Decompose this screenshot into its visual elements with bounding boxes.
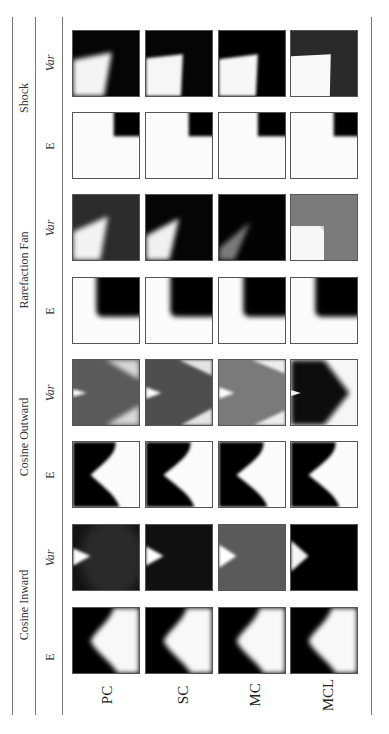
tile-cosine-inward-var-pc — [72, 524, 140, 591]
method-label-pc: PC — [99, 686, 116, 704]
tile-cosine-outward-e-sc — [145, 441, 213, 508]
tile-cosine-inward-e-mcl — [290, 607, 358, 674]
tile-cosine-inward-e-pc — [72, 607, 140, 674]
tile-cosine-outward-e-mcl — [290, 441, 358, 508]
tile-cosine-inward-var-mc — [218, 524, 286, 591]
tile-rarefaction-e-sc — [145, 277, 213, 344]
method-label-sc: SC — [175, 686, 192, 704]
sub-label-var: Var — [43, 385, 58, 402]
sub-label-var: Var — [43, 220, 58, 237]
sub-label-var: Var — [43, 550, 58, 567]
tile-shock-var-mcl — [290, 30, 358, 97]
tile-shock-e-mc — [218, 112, 286, 179]
tile-cosine-inward-e-sc — [145, 607, 213, 674]
tile-rarefaction-var-sc — [145, 194, 213, 261]
tile-rarefaction-e-mc — [218, 277, 286, 344]
tile-cosine-outward-var-mcl — [290, 359, 358, 426]
group-label-cosine-outward: Cosine Outward — [17, 398, 32, 476]
rule-top — [12, 17, 13, 715]
tile-cosine-inward-var-mcl — [290, 524, 358, 591]
tile-shock-var-pc — [72, 30, 140, 97]
sub-label-var: Var — [43, 55, 58, 72]
method-label-mcl: MCL — [320, 679, 337, 712]
tile-cosine-outward-e-mc — [218, 441, 286, 508]
tile-rarefaction-e-pc — [72, 277, 140, 344]
rule-mid — [35, 17, 36, 715]
tile-cosine-outward-var-pc — [72, 359, 140, 426]
tile-rarefaction-var-mc — [218, 194, 286, 261]
tile-cosine-outward-e-pc — [72, 441, 140, 508]
tile-shock-e-sc — [145, 112, 213, 179]
rule-bottom — [371, 17, 372, 715]
rule-sub — [62, 17, 63, 715]
sub-label-e: E — [43, 142, 58, 149]
tile-shock-e-mcl — [290, 112, 358, 179]
tile-rarefaction-var-mcl — [290, 194, 358, 261]
tile-rarefaction-var-pc — [72, 194, 140, 261]
group-label-shock: Shock — [17, 83, 32, 113]
tile-rarefaction-e-mcl — [290, 277, 358, 344]
tile-cosine-outward-var-sc — [145, 359, 213, 426]
group-label-cosine-inward: Cosine Inward — [17, 570, 32, 640]
sub-label-e: E — [43, 471, 58, 478]
tile-shock-e-pc — [72, 112, 140, 179]
tile-cosine-inward-var-sc — [145, 524, 213, 591]
sub-label-e: E — [43, 653, 58, 660]
group-label-rarefaction: Rarefaction Fan — [17, 232, 32, 309]
tile-shock-var-mc — [218, 30, 286, 97]
method-label-mc: MC — [247, 683, 264, 706]
sub-label-e: E — [43, 307, 58, 314]
tile-shock-var-sc — [145, 30, 213, 97]
tile-cosine-inward-e-mc — [218, 607, 286, 674]
tile-cosine-outward-var-mc — [218, 359, 286, 426]
